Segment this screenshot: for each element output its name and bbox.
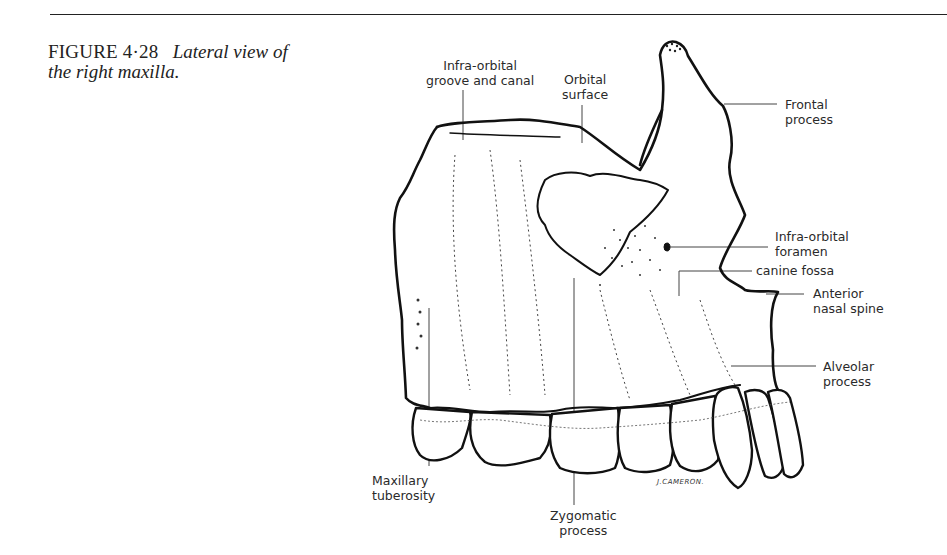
label-infra-orbital-foramen: Infra-orbital foramen [775,229,849,259]
label-frontal-process: Frontal process [785,97,833,127]
tooth-molar-3 [413,408,471,460]
label-canine-fossa: canine fossa [756,263,834,278]
leader-canine-fossa [679,271,752,296]
label-maxillary-tuberosity: Maxillary tuberosity [372,473,435,503]
teeth [413,387,803,488]
tooth-premolar-2 [618,405,674,472]
label-orbital-surface: Orbital surface [562,72,608,102]
infra-orbital-groove [450,133,560,137]
posterior-outline [394,127,437,408]
surface-ridges [453,150,735,400]
label-zygomatic-process: Zygomatic process [550,508,617,538]
zygomatic-process-surface [538,173,669,275]
infra-orbital-foramen-mark [664,243,670,251]
label-infra-orbital-groove: Infra-orbital groove and canal [426,58,534,88]
label-anterior-nasal-spine: Anterior nasal spine [813,286,884,316]
frontal-process-inner [640,110,662,165]
tooth-molar-2 [470,412,551,465]
tooth-molar-1 [550,408,620,473]
label-alveolar-process: Alveolar process [823,359,874,389]
artist-signature: J.CAMERON. [657,478,704,486]
